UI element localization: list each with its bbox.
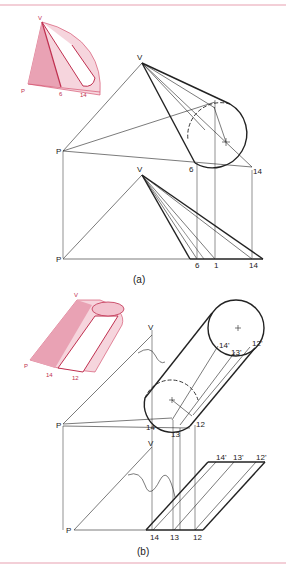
part-b-front-label-v: V <box>148 439 154 448</box>
inset-b-label-v: V <box>74 292 78 298</box>
part-a-top-label-6: 6 <box>189 165 194 174</box>
part-a-front-label-14: 14 <box>249 261 258 270</box>
part-b-front-label-14p: 14' <box>216 453 227 462</box>
inset-a-label-v: V <box>38 15 42 21</box>
figure-canvas: V P 6 14 V P 6 14 <box>0 0 286 571</box>
part-b-front-label-p: P <box>66 526 71 535</box>
part-b-front-label-14: 14 <box>150 533 159 542</box>
part-a-top-label-v: V <box>137 53 143 62</box>
part-b-top-label-12: 12 <box>196 420 205 429</box>
part-b-top-label-14: 14 <box>146 423 155 432</box>
part-b-top-label-13p: 13' <box>231 348 242 357</box>
inset-b-label-12: 12 <box>72 375 79 381</box>
part-b-front-label-12: 12 <box>193 533 202 542</box>
inset-a-label-14: 14 <box>80 92 87 98</box>
part-b-top-label-v: V <box>148 323 154 332</box>
part-b-top-label-12p: 12' <box>252 339 263 348</box>
part-b-inset-sketch: V P 14 12 <box>24 292 124 381</box>
part-a-inset-sketch: V P 6 14 <box>21 15 100 98</box>
part-a-caption: (a) <box>133 274 145 285</box>
inset-b-label-14: 14 <box>46 372 53 378</box>
part-b-top-label-14p: 14' <box>219 341 230 350</box>
part-a-top-label-p: P <box>56 147 61 156</box>
part-b-caption: (b) <box>137 546 149 557</box>
part-b-front-label-13p: 13' <box>233 453 244 462</box>
part-a-front-label-v: V <box>137 165 143 174</box>
part-b-top-label-p: P <box>56 421 61 430</box>
inset-a-label-p: P <box>21 88 25 94</box>
part-a-top-label-14: 14 <box>253 167 262 176</box>
part-a-front-label-6: 6 <box>195 261 200 270</box>
inset-a-label-6: 6 <box>59 91 63 97</box>
part-b-top-label-13: 13 <box>171 430 180 439</box>
part-a-front-label-1: 1 <box>214 261 219 270</box>
part-b-front-label-13: 13 <box>170 533 179 542</box>
part-a-front-view <box>63 175 263 259</box>
part-b-front-label-12p: 12' <box>256 453 267 462</box>
part-a-front-label-p: P <box>56 255 61 264</box>
inset-b-label-p: P <box>24 363 28 369</box>
